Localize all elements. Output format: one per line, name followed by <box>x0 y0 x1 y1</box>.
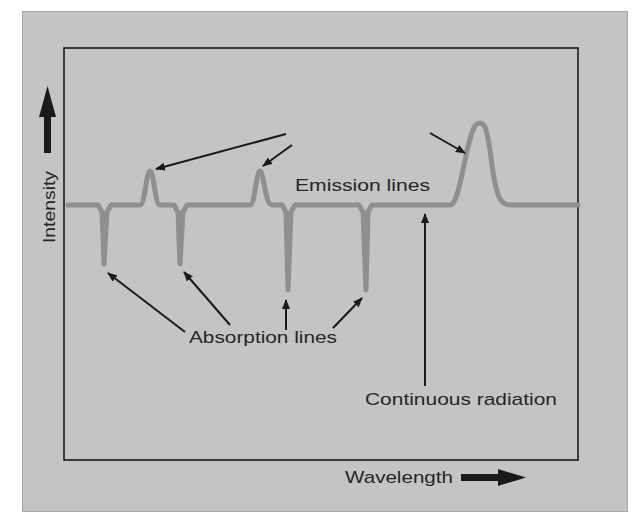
wavelength-axis-label: Wavelength <box>345 468 453 487</box>
absorption-arrow-2 <box>184 272 230 325</box>
emission-arrow-3 <box>430 133 465 153</box>
intensity-arrow-icon <box>39 86 56 153</box>
spectrum-line <box>68 123 578 290</box>
wavelength-arrow-icon <box>461 469 526 486</box>
absorption-arrow-1 <box>108 273 185 332</box>
absorption-lines-label: Absorption lines <box>189 328 337 347</box>
continuous-radiation-label: Continuous radiation <box>365 390 557 409</box>
absorption-arrow-4 <box>333 298 362 328</box>
intensity-axis-label: Intensity <box>40 170 59 243</box>
emission-lines-label: Emission lines <box>295 176 430 195</box>
spectrum-diagram: Emission lines Absorption lines Continuo… <box>0 0 638 527</box>
emission-arrow-2 <box>263 145 292 166</box>
